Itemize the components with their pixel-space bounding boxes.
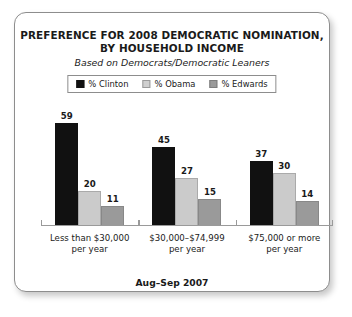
bar-groups: 592011452715373014 xyxy=(41,113,333,225)
title-line-1: PREFERENCE FOR 2008 DEMOCRATIC NOMINATIO… xyxy=(20,29,323,41)
bar-clinton-0[interactable] xyxy=(55,123,78,225)
category-label-1: $30,000–$74,999 per year xyxy=(138,233,235,255)
bar-wrap-edwards-1: 15 xyxy=(198,113,221,225)
bar-value-label-obama-1: 27 xyxy=(175,166,198,176)
axis-tick-3 xyxy=(332,220,333,226)
axis-tick-0 xyxy=(41,220,42,226)
bar-value-label-obama-2: 30 xyxy=(273,161,296,171)
bar-value-label-edwards-0: 11 xyxy=(101,194,124,204)
bar-clinton-1[interactable] xyxy=(152,147,175,225)
legend-item-edwards[interactable]: % Edwards xyxy=(209,79,267,89)
category-0-line-1: Less than $30,000 xyxy=(50,233,129,243)
bar-clinton-2[interactable] xyxy=(250,161,273,225)
plot-area: 592011452715373014 xyxy=(41,113,333,225)
chart-card: PREFERENCE FOR 2008 DEMOCRATIC NOMINATIO… xyxy=(14,12,330,292)
chart-footer-date: Aug–Sep 2007 xyxy=(15,277,329,288)
bar-wrap-obama-1: 27 xyxy=(175,113,198,225)
bar-value-label-clinton-1: 45 xyxy=(152,135,175,145)
category-labels: Less than $30,000 per year $30,000–$74,9… xyxy=(41,233,333,255)
bar-obama-0[interactable] xyxy=(78,191,101,225)
bar-edwards-2[interactable] xyxy=(296,201,319,225)
category-1-line-2: per year xyxy=(138,244,235,255)
bar-value-label-obama-0: 20 xyxy=(78,179,101,189)
bar-edwards-0[interactable] xyxy=(101,206,124,225)
bar-edwards-1[interactable] xyxy=(198,199,221,225)
category-label-0: Less than $30,000 per year xyxy=(41,233,138,255)
legend-label-clinton: % Clinton xyxy=(88,79,128,89)
bar-obama-2[interactable] xyxy=(273,173,296,225)
bar-value-label-edwards-2: 14 xyxy=(296,189,319,199)
legend-label-edwards: % Edwards xyxy=(221,79,267,89)
bar-wrap-edwards-2: 14 xyxy=(296,113,319,225)
category-2-line-1: $75,000 or more xyxy=(248,233,320,243)
bar-group-2: 373014 xyxy=(236,113,333,225)
obama-swatch-icon xyxy=(143,80,151,88)
chart-legend: % Clinton % Obama % Edwards xyxy=(67,75,276,93)
chart-page: PREFERENCE FOR 2008 DEMOCRATIC NOMINATIO… xyxy=(0,0,352,317)
bar-wrap-obama-0: 20 xyxy=(78,113,101,225)
category-0-line-2: per year xyxy=(41,244,138,255)
bar-group-0: 592011 xyxy=(41,113,138,225)
bar-wrap-clinton-1: 45 xyxy=(152,113,175,225)
category-label-2: $75,000 or more per year xyxy=(236,233,333,255)
bar-wrap-edwards-0: 11 xyxy=(101,113,124,225)
bar-value-label-clinton-2: 37 xyxy=(250,149,273,159)
legend-label-obama: % Obama xyxy=(155,79,196,89)
bar-wrap-clinton-2: 37 xyxy=(250,113,273,225)
edwards-swatch-icon xyxy=(209,80,217,88)
bar-wrap-clinton-0: 59 xyxy=(55,113,78,225)
chart-subtitle: Based on Democrats/Democratic Leaners xyxy=(15,57,329,68)
bar-group-1: 452715 xyxy=(138,113,235,225)
legend-item-clinton[interactable]: % Clinton xyxy=(76,79,128,89)
axis-tick-1 xyxy=(138,220,139,226)
bar-value-label-clinton-0: 59 xyxy=(55,111,78,121)
category-1-line-1: $30,000–$74,999 xyxy=(149,233,224,243)
bar-value-label-edwards-1: 15 xyxy=(198,187,221,197)
clinton-swatch-icon xyxy=(76,80,84,88)
title-line-2: BY HOUSEHOLD INCOME xyxy=(15,42,329,55)
page-title: PREFERENCE FOR 2008 DEMOCRATIC NOMINATIO… xyxy=(15,29,329,54)
axis-tick-2 xyxy=(236,220,237,226)
bar-obama-1[interactable] xyxy=(175,178,198,225)
category-2-line-2: per year xyxy=(236,244,333,255)
legend-item-obama[interactable]: % Obama xyxy=(143,79,196,89)
x-axis-line xyxy=(41,225,333,226)
bar-wrap-obama-2: 30 xyxy=(273,113,296,225)
